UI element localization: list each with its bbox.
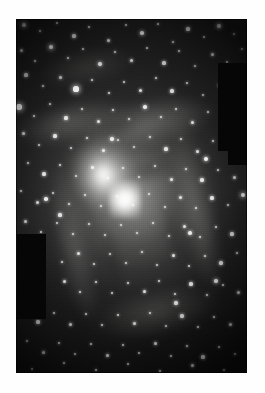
vignette-layer (16, 19, 247, 373)
page-root (0, 0, 265, 393)
mask-upper-right-large (218, 63, 247, 151)
mask-upper-right-small (228, 148, 247, 165)
spiral-galaxy-photograph (16, 19, 247, 373)
mask-left-middle (17, 234, 46, 319)
